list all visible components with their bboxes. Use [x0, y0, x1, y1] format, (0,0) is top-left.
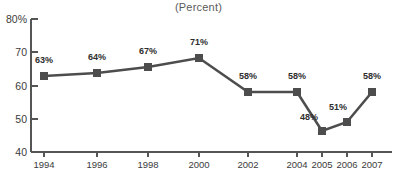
data-point-label: 51% [329, 102, 347, 112]
data-point-label: 71% [190, 37, 208, 47]
data-point-label: 58% [239, 71, 257, 81]
data-point-labels: 63%64%67%71%58%58%48%51%58% [35, 37, 381, 122]
y-tick-label: 80% [6, 13, 27, 25]
x-tick-label: 2007 [361, 159, 382, 170]
y-tick-label: 60 [15, 80, 27, 92]
x-tick-label: 2000 [188, 159, 209, 170]
data-point-label: 63% [35, 55, 53, 65]
x-tick-label: 1996 [86, 159, 107, 170]
series-polyline [44, 58, 372, 131]
x-tick-label: 1998 [137, 159, 158, 170]
data-point-marker [40, 72, 48, 80]
x-tick-label: 2004 [286, 159, 307, 170]
chart-container: (Percent) 63%64%67%71%58%58%48%51%58% 40… [0, 0, 397, 172]
data-point-label: 48% [300, 112, 318, 122]
x-tick-label: 2006 [336, 159, 357, 170]
data-point-marker [93, 69, 101, 77]
x-tick-label: 2005 [311, 159, 332, 170]
data-markers [40, 54, 376, 135]
y-tick-label: 50 [15, 113, 27, 125]
y-tick-label: 70 [15, 46, 27, 58]
data-series-percent [44, 58, 372, 131]
data-point-marker [144, 63, 152, 71]
x-axis [31, 152, 392, 157]
data-point-label: 67% [139, 46, 157, 56]
data-point-marker [244, 88, 252, 96]
data-point-label: 58% [363, 71, 381, 81]
y-tick-label: 40 [15, 146, 27, 158]
data-point-marker [293, 88, 301, 96]
data-point-label: 64% [88, 52, 106, 62]
x-tick-labels: 199419961998200020022004200520062007 [33, 159, 382, 170]
data-point-marker [343, 118, 351, 126]
data-point-marker [318, 127, 326, 135]
data-point-label: 58% [288, 71, 306, 81]
data-point-marker [195, 54, 203, 62]
x-tick-label: 1994 [33, 159, 54, 170]
data-point-marker [368, 88, 376, 96]
x-tick-label: 2002 [237, 159, 258, 170]
y-tick-labels: 4050607080% [6, 13, 27, 158]
line-chart-plot: 63%64%67%71%58%58%48%51%58% 4050607080% … [0, 0, 397, 172]
y-axis [31, 19, 38, 152]
